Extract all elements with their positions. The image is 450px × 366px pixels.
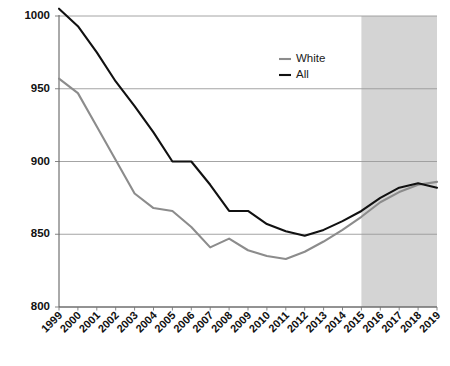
y-tick-label: 1000 [24,9,50,21]
y-tick-label: 950 [31,82,50,94]
y-tick-label: 900 [31,155,50,167]
chart-container: 8008509009501000 19992000200120022003200… [0,0,450,366]
y-tick-label: 850 [31,227,50,239]
legend-label-white: White [296,52,325,64]
y-tick-label: 800 [31,300,50,312]
legend-label-all: All [296,68,309,80]
line-chart: 8008509009501000 19992000200120022003200… [0,0,450,366]
